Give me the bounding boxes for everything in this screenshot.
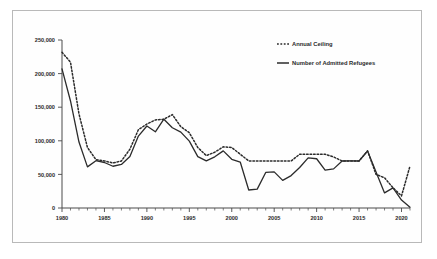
chart-figure: 050,000100,000150,000200,000250,000 1980… xyxy=(0,0,437,259)
x-tick-label: 1995 xyxy=(183,215,195,221)
x-tick-label: 1980 xyxy=(56,215,68,221)
series-line-annual-ceiling xyxy=(62,52,410,196)
x-tick-label: 1990 xyxy=(141,215,153,221)
x-tick-label: 2010 xyxy=(310,215,322,221)
x-tick-label: 2020 xyxy=(395,215,407,221)
x-tick-label: 1985 xyxy=(98,215,110,221)
y-axis-ticks: 050,000100,000150,000200,000250,000 xyxy=(35,37,62,211)
y-tick-label: 0 xyxy=(52,205,55,211)
x-tick-label: 2005 xyxy=(268,215,280,221)
series-line-number-of-admitted-refugees xyxy=(62,69,410,208)
legend-label: Number of Admitted Refugees xyxy=(292,60,375,66)
chart-legend: Annual CeilingNumber of Admitted Refugee… xyxy=(277,41,375,66)
x-axis-ticks: 198019851990199520002005201020152020 xyxy=(56,208,410,221)
y-tick-label: 200,000 xyxy=(35,71,55,77)
y-tick-label: 100,000 xyxy=(35,138,55,144)
y-tick-label: 50,000 xyxy=(38,172,55,178)
legend-label: Annual Ceiling xyxy=(292,41,333,47)
x-tick-label: 2000 xyxy=(226,215,238,221)
x-tick-label: 2015 xyxy=(353,215,365,221)
y-tick-label: 250,000 xyxy=(35,37,55,43)
y-tick-label: 150,000 xyxy=(35,104,55,110)
line-chart: 050,000100,000150,000200,000250,000 1980… xyxy=(0,0,437,259)
data-series xyxy=(62,52,410,207)
